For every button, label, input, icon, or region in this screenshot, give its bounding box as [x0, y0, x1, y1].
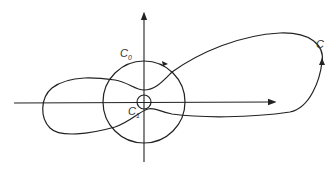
c0-arrow — [162, 61, 168, 66]
label-c: C — [316, 38, 324, 50]
contour-diagram: C0 C1 C — [0, 0, 332, 172]
label-c1: C1 — [128, 105, 140, 119]
outer-contour-c — [43, 33, 323, 134]
label-c0: C0 — [120, 47, 132, 61]
c-arrow — [319, 58, 325, 65]
x-axis — [14, 102, 272, 103]
